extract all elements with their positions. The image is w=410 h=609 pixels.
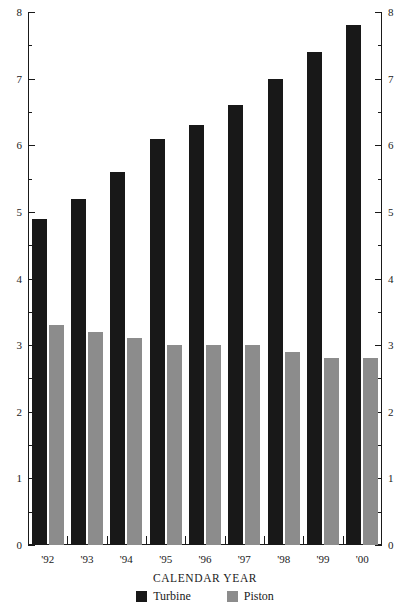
y-axis-label-left: 6 — [4, 140, 22, 151]
legend-swatch-piston — [227, 591, 238, 602]
bar-piston-95 — [167, 345, 182, 545]
y-axis-label-left: 3 — [4, 340, 22, 351]
bar-turbine-94 — [110, 172, 125, 545]
bar-turbine-00 — [346, 25, 361, 545]
x-tick — [303, 536, 304, 545]
x-axis-label-92: '92 — [28, 553, 68, 565]
bar-piston-93 — [88, 332, 103, 545]
y-tick-major-left — [28, 12, 35, 13]
y-axis-label-left: 8 — [4, 7, 22, 18]
legend-swatch-turbine — [136, 591, 147, 602]
bar-turbine-95 — [150, 139, 165, 545]
x-axis-label-94: '94 — [106, 553, 146, 565]
y-tick-major-left — [28, 145, 35, 146]
y-tick-minor-right — [378, 312, 382, 313]
bar-piston-96 — [206, 345, 221, 545]
bar-piston-99 — [324, 358, 339, 545]
x-tick — [343, 536, 344, 545]
x-axis-label-95: '95 — [146, 553, 186, 565]
x-tick — [146, 536, 147, 545]
legend-label-piston: Piston — [244, 589, 274, 604]
y-tick-minor-right — [378, 179, 382, 180]
y-axis-label-left: 2 — [4, 407, 22, 418]
y-tick-minor-right — [378, 245, 382, 246]
bar-chart: 012345678 012345678 '92'93'94'95'96'97'9… — [0, 0, 410, 609]
bar-piston-94 — [127, 338, 142, 545]
y-axis-label-right: 5 — [388, 207, 406, 218]
x-tick — [225, 536, 226, 545]
y-tick-major-right — [375, 79, 382, 80]
y-tick-minor-right — [378, 112, 382, 113]
y-tick-major-right — [375, 212, 382, 213]
x-axis-label-96: '96 — [185, 553, 225, 565]
bar-turbine-93 — [71, 199, 86, 545]
y-axis-label-left: 4 — [4, 274, 22, 285]
y-axis-label-right: 6 — [388, 140, 406, 151]
y-tick-minor-right — [378, 512, 382, 513]
y-axis-label-right: 4 — [388, 274, 406, 285]
y-tick-minor-right — [378, 45, 382, 46]
y-axis-label-left: 1 — [4, 473, 22, 484]
legend-item-turbine: Turbine — [136, 589, 191, 604]
bar-turbine-99 — [307, 52, 322, 545]
y-tick-major-right — [375, 12, 382, 13]
y-tick-major-left — [28, 79, 35, 80]
y-tick-minor-right — [378, 445, 382, 446]
x-axis-title: CALENDAR YEAR — [0, 572, 410, 584]
y-axis-label-left: 0 — [4, 540, 22, 551]
x-tick — [107, 536, 108, 545]
bar-piston-00 — [363, 358, 378, 545]
bar-piston-97 — [245, 345, 260, 545]
chart-legend: Turbine Piston — [0, 589, 410, 604]
y-tick-major-right — [375, 545, 382, 546]
bar-turbine-98 — [268, 79, 283, 545]
y-tick-minor-left — [28, 45, 32, 46]
legend-item-piston: Piston — [227, 589, 274, 604]
y-axis-label-left: 7 — [4, 74, 22, 85]
bar-turbine-92 — [32, 219, 47, 545]
y-axis-label-right: 1 — [388, 473, 406, 484]
legend-label-turbine: Turbine — [153, 589, 191, 604]
bar-turbine-96 — [189, 125, 204, 545]
x-axis-label-93: '93 — [67, 553, 107, 565]
y-tick-major-right — [375, 345, 382, 346]
y-axis-label-right: 3 — [388, 340, 406, 351]
x-axis-label-97: '97 — [224, 553, 264, 565]
y-axis-label-right: 2 — [388, 407, 406, 418]
y-tick-minor-left — [28, 179, 32, 180]
x-tick — [67, 536, 68, 545]
x-tick — [185, 536, 186, 545]
y-axis-label-right: 8 — [388, 7, 406, 18]
bar-piston-92 — [49, 325, 64, 545]
y-tick-major-left — [28, 212, 35, 213]
y-axis-label-right: 0 — [388, 540, 406, 551]
y-tick-minor-right — [378, 378, 382, 379]
plot-area — [28, 12, 382, 545]
y-axis-label-left: 5 — [4, 207, 22, 218]
bar-piston-98 — [285, 352, 300, 545]
bar-turbine-97 — [228, 105, 243, 545]
y-tick-minor-left — [28, 112, 32, 113]
y-tick-major-left — [28, 545, 35, 546]
y-tick-major-right — [375, 279, 382, 280]
x-axis-label-99: '99 — [303, 553, 343, 565]
x-tick — [264, 536, 265, 545]
y-axis-label-right: 7 — [388, 74, 406, 85]
x-axis-label-98: '98 — [264, 553, 304, 565]
y-tick-major-right — [375, 145, 382, 146]
x-axis-label-00: '00 — [342, 553, 382, 565]
